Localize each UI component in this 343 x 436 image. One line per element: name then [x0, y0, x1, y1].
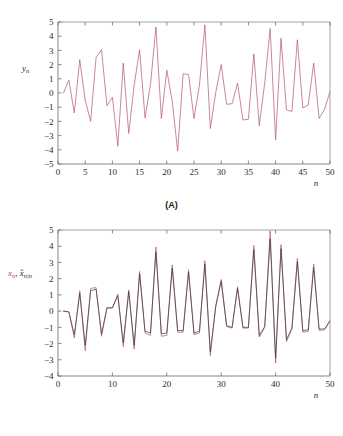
y-tick-label: 1	[49, 74, 54, 84]
panel-b-plot: −4−3−2−101234501020304050nxn, x̂n|n	[0, 218, 343, 418]
y-tick-label: 5	[49, 17, 54, 27]
x-tick-label: 5	[83, 167, 88, 177]
x-tick-label: 0	[56, 379, 61, 389]
y-tick-label: 3	[49, 46, 54, 56]
y-tick-label: −2	[44, 339, 54, 349]
x-tick-label: 40	[271, 167, 281, 177]
x-tick-label: 15	[135, 167, 145, 177]
x-tick-label: 10	[108, 379, 118, 389]
series-line-measurement	[63, 231, 330, 363]
series-group	[63, 25, 330, 151]
x-tick-label: 20	[162, 379, 172, 389]
y-tick-label: −2	[44, 117, 54, 127]
y-axis-title: xn, x̂n|n	[7, 268, 32, 279]
panel-a-caption: (A)	[0, 200, 343, 210]
y-tick-label: 0	[49, 306, 54, 316]
y-tick-label: 1	[49, 290, 54, 300]
y-tick-label: −1	[44, 102, 54, 112]
x-tick-label: 20	[162, 167, 172, 177]
y-tick-label: 4	[49, 31, 54, 41]
x-tick-label: 10	[108, 167, 118, 177]
y-tick-label: −4	[44, 145, 54, 155]
plot-frame	[58, 22, 330, 164]
x-tick-label: 40	[271, 379, 281, 389]
x-axis-title: n	[314, 178, 319, 188]
x-tick-label: 30	[217, 379, 227, 389]
series-line-estimate	[63, 239, 330, 358]
plot-frame	[58, 230, 330, 376]
panel-a-plot: −5−4−3−2−101234505101520253035404550nyn	[0, 0, 343, 200]
y-tick-label: −1	[44, 323, 54, 333]
y-tick-label: −5	[44, 159, 54, 169]
x-tick-label: 30	[217, 167, 227, 177]
series-line-measurement	[63, 25, 330, 151]
x-tick-label: 0	[56, 167, 61, 177]
x-tick-label: 50	[326, 167, 336, 177]
x-tick-label: 25	[190, 167, 200, 177]
x-axis-title: n	[314, 390, 319, 400]
chart-panel-a: −5−4−3−2−101234505101520253035404550nyn …	[0, 0, 343, 220]
y-tick-label: −3	[44, 355, 54, 365]
y-axis-title: yn	[21, 63, 29, 74]
figure-container: −5−4−3−2−101234505101520253035404550nyn …	[0, 0, 343, 436]
chart-panel-b: −4−3−2−101234501020304050nxn, x̂n|n (B)	[0, 218, 343, 436]
y-tick-label: 4	[49, 241, 54, 251]
y-tick-label: 3	[49, 258, 54, 268]
y-tick-label: 5	[49, 225, 54, 235]
y-tick-label: −3	[44, 131, 54, 141]
y-tick-label: 2	[49, 60, 54, 70]
y-tick-label: 2	[49, 274, 54, 284]
x-tick-label: 45	[298, 167, 308, 177]
x-tick-label: 50	[326, 379, 336, 389]
y-tick-label: −4	[44, 371, 54, 381]
x-tick-label: 35	[244, 167, 254, 177]
series-group	[63, 231, 330, 363]
y-tick-label: 0	[49, 88, 54, 98]
